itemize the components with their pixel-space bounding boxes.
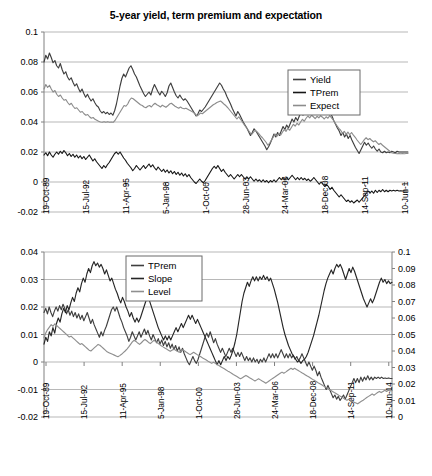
legend-label-tprem: TPrem [310,87,339,98]
x-tick-label: 18-Dec-08 [321,175,330,214]
y-tick-label: 0.02 [20,302,38,312]
x-tick-label: 18-Dec-08 [309,380,318,419]
x-tick-label: 15-Jul-92 [80,384,89,419]
x-tick-label: 11-Apr-95 [122,178,131,214]
y-tick-label-right: 0.1 [398,247,411,257]
x-tick-label: 24-Mar-06 [281,176,290,214]
y-tick-label-right: 0.07 [398,297,416,307]
y-tick-label: 0.06 [20,87,38,97]
y-tick-label-right: 0.08 [398,280,416,290]
top-chart-svg: 0.10.080.060.040.020-0.0219-Oct-8915-Jul… [0,0,432,240]
series-line-slope [44,262,392,365]
x-tick-label: 24-Mar-06 [271,381,280,419]
y-tick-label-right: 0.05 [398,330,416,340]
y-tick-label: 0.08 [20,57,38,67]
x-tick-label: 5-Jan-98 [157,386,166,419]
y-tick-label: 0.04 [20,117,38,127]
x-tick-label: 5-Jan-98 [162,181,171,214]
x-tick-label: 19-Oct-89 [42,177,51,214]
y-tick-label: 0 [33,177,38,187]
x-tick-label: 11-Apr-95 [119,383,128,419]
y-tick-label-right: 0.06 [398,313,416,323]
page-title: 5-year yield, term premium and expectati… [0,9,432,21]
y-tick-label: 0 [33,357,38,367]
y-tick-label: 0.02 [20,147,38,157]
y-tick-label: -0.02 [17,412,38,422]
x-tick-label: 19-Oct-89 [42,382,51,419]
x-tick-label: 1-Oct-00 [202,182,211,214]
legend-label-tprem: TPrem [148,260,177,271]
bottom-chart-svg: 0.040.030.020.010-0.01-0.020.10.090.080.… [0,240,432,476]
x-tick-label: 10-Jun-1 [401,181,410,214]
x-tick-label: 1-Oct-00 [195,387,204,419]
y-tick-label: 0.1 [25,27,38,37]
y-tick-label-right: 0.01 [398,396,416,406]
y-tick-label: -0.01 [17,385,38,395]
bottom-chart-panel: 0.040.030.020.010-0.01-0.020.10.090.080.… [0,240,432,476]
y-tick-label: 0.01 [20,330,38,340]
y-tick-label: 0.04 [20,247,38,257]
x-tick-label: 28-Jun-03 [233,382,242,419]
y-tick-label: 0.03 [20,275,38,285]
y-tick-label: -0.02 [17,207,38,217]
top-chart-panel: 5-year yield, term premium and expectati… [0,0,432,240]
y-tick-label-right: 0 [398,412,403,422]
y-tick-label-right: 0.03 [398,363,416,373]
x-tick-label: 15-Jul-92 [82,179,91,214]
series-line-tprem [44,151,408,204]
y-tick-label-right: 0.09 [398,264,416,274]
y-tick-label-right: 0.02 [398,379,416,389]
series-line-tprem [44,304,392,400]
x-tick-label: 28-Jun-03 [242,177,251,214]
y-tick-label-right: 0.04 [398,346,416,356]
legend-label-level: Level [148,286,171,297]
legend-label-slope: Slope [148,273,172,284]
legend-label-yield: Yield [310,74,331,85]
x-tick-label: 10-Jun-14 [385,382,394,419]
legend-label-expect: Expect [310,100,339,111]
